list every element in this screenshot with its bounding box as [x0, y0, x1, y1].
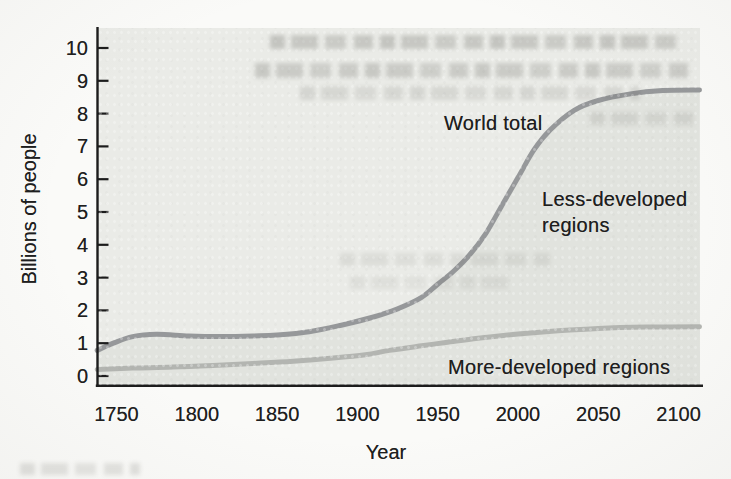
x-tick-label: 1850	[245, 402, 309, 426]
y-tick-label: 5	[42, 200, 88, 224]
y-tick-label: 0	[42, 364, 88, 388]
more-developed-regions-label: More-developed regions	[448, 355, 670, 379]
y-tick-label: 4	[42, 233, 88, 257]
x-tick-label: 2050	[566, 402, 630, 426]
y-tick-label: 8	[42, 102, 88, 126]
y-axis-title: Billions of people	[17, 97, 43, 321]
world-total-label: World total	[444, 111, 543, 135]
y-tick-label: 1	[42, 331, 88, 355]
x-tick-label: 1950	[406, 402, 470, 426]
less-developed-regions-label-line2: regions	[542, 213, 610, 237]
y-tick-label: 2	[42, 298, 88, 322]
y-tick-label: 3	[42, 266, 88, 290]
y-tick-label: 6	[42, 167, 88, 191]
x-tick-label: 2000	[486, 402, 550, 426]
y-tick-label: 9	[42, 69, 88, 93]
x-tick-label: 2100	[647, 402, 711, 426]
x-tick-label: 1800	[165, 402, 229, 426]
x-tick-label: 1900	[325, 402, 389, 426]
less-developed-regions-label-line1: Less-developed	[542, 187, 687, 211]
x-tick-label: 1750	[85, 402, 149, 426]
y-tick-label: 10	[42, 36, 88, 60]
x-axis-title: Year	[336, 440, 436, 464]
y-tick-label: 7	[42, 134, 88, 158]
population-growth-figure: 012345678910 175018001850190019502000205…	[0, 0, 731, 479]
